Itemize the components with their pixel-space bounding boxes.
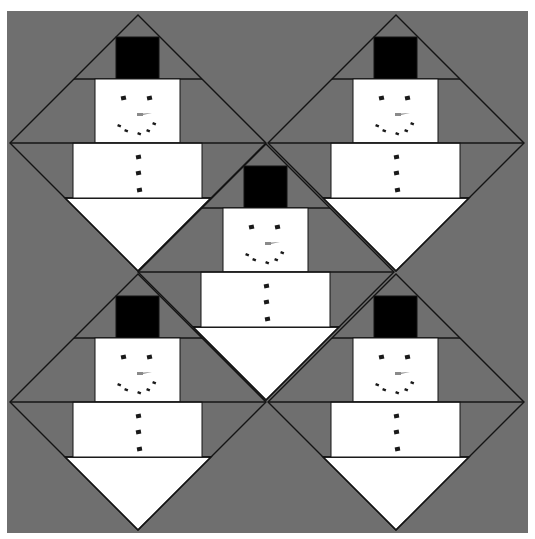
hat <box>116 296 159 338</box>
button <box>394 155 400 160</box>
hat <box>374 296 417 338</box>
carrot-nose <box>265 242 271 245</box>
button <box>395 447 401 452</box>
button <box>394 171 400 176</box>
carrot-nose <box>137 372 143 375</box>
snowman-quilt <box>0 0 535 539</box>
button <box>136 414 142 419</box>
button <box>136 171 142 176</box>
button <box>394 414 400 419</box>
button <box>265 317 271 322</box>
button <box>137 447 143 452</box>
hat <box>374 37 417 79</box>
button <box>264 300 270 305</box>
carrot-nose <box>395 372 401 375</box>
hat <box>116 37 159 79</box>
button <box>394 430 400 435</box>
button <box>264 284 270 289</box>
button <box>136 430 142 435</box>
button <box>137 188 143 193</box>
carrot-nose <box>137 113 143 116</box>
carrot-nose <box>395 113 401 116</box>
button <box>395 188 401 193</box>
hat <box>244 166 287 208</box>
button <box>136 155 142 160</box>
